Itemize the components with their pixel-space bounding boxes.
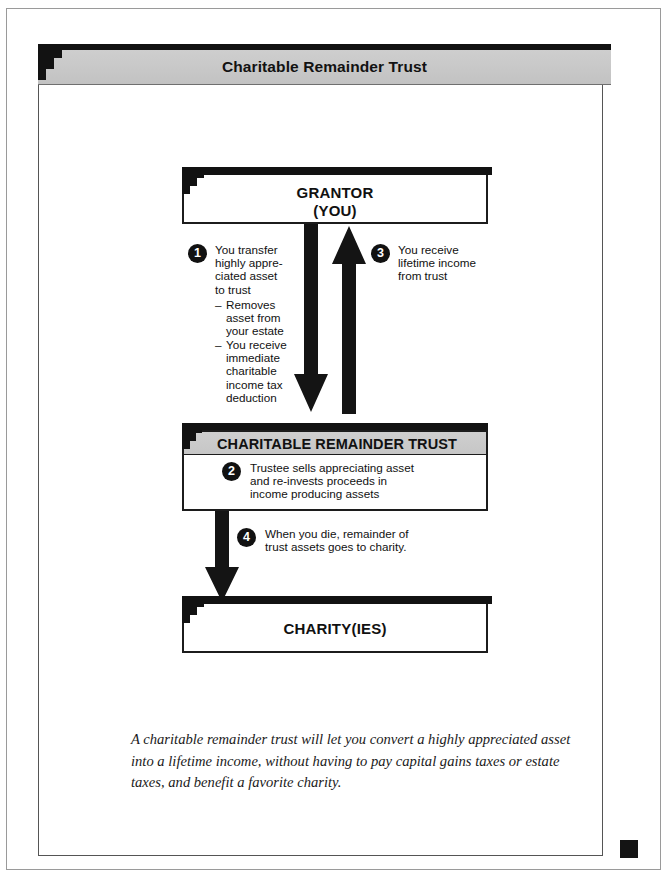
charity-top-rule <box>182 596 492 604</box>
step-4-badge: 4 <box>237 528 256 547</box>
grantor-title-group: GRANTOR (YOU) <box>184 184 486 220</box>
corner-accent-square <box>620 840 638 858</box>
step-1-text: You transferhighly appre-ciated assetto … <box>215 243 301 296</box>
arrow-trust-to-grantor-icon <box>332 224 366 414</box>
step-4-text: When you die, remainder oftrust assets g… <box>265 527 500 553</box>
step-3-text: You receivelifetime incomefrom trust <box>398 243 498 283</box>
trust-stepped-corner-decoration <box>182 423 214 455</box>
page-title: Charitable Remainder Trust <box>38 50 611 84</box>
step-1-sub-1-marker: – <box>215 298 222 311</box>
trust-top-rule <box>182 423 488 430</box>
step-1-sub-1-text: Removes asset from your estate <box>226 298 304 338</box>
grantor-top-rule <box>182 167 492 175</box>
arrow-trust-to-charity-icon <box>205 511 239 603</box>
step-3-badge: 3 <box>371 244 390 263</box>
node-grantor: GRANTOR (YOU) <box>182 173 488 224</box>
diagram-caption: A charitable remainder trust will let yo… <box>131 729 571 794</box>
trust-title: CHARITABLE REMAINDER TRUST <box>184 432 490 455</box>
header-bottom-rule <box>38 84 611 85</box>
trust-header-bar: CHARITABLE REMAINDER TRUST <box>182 430 488 455</box>
header-banner: Charitable Remainder Trust <box>38 44 611 84</box>
grantor-title-line2: (YOU) <box>184 202 486 220</box>
charity-title: CHARITY(IES) <box>184 620 486 638</box>
node-charity: CHARITY(IES) <box>182 602 488 653</box>
step-2-text: Trustee sells appreciating assetand re-i… <box>250 461 490 501</box>
step-2-badge: 2 <box>222 462 241 481</box>
charity-title-group: CHARITY(IES) <box>184 620 486 638</box>
step-1-sub-2-text: You receive immediate charitable income … <box>226 338 306 404</box>
step-1-sub-2-marker: – <box>215 338 222 351</box>
step-1-badge: 1 <box>188 244 207 263</box>
grantor-title-line1: GRANTOR <box>184 184 486 202</box>
